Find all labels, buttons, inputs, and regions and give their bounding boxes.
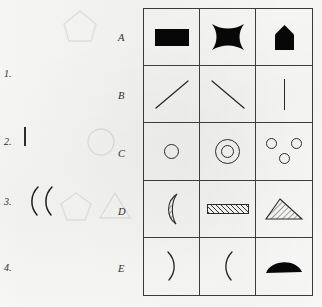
hatched-crescent-icon (162, 192, 182, 226)
cell-d1-hatched-crescent[interactable] (144, 181, 200, 237)
option-figure-hatched-rectangle (24, 128, 26, 146)
hatched-triangle-icon (264, 197, 304, 221)
concentric-circles-icon (215, 139, 240, 164)
cell-c3-three-small-circles[interactable] (256, 123, 312, 179)
cell-d2-hatched-rectangle[interactable] (200, 181, 256, 237)
cell-c2-concentric-circles[interactable] (200, 123, 256, 179)
cell-b1-diagonal-up[interactable] (144, 66, 200, 122)
cell-a1-filled-rectangle[interactable] (144, 9, 200, 65)
diagonal-line-down-icon (210, 79, 246, 110)
option-number-1: 1. (4, 68, 12, 79)
grid-row-e (144, 238, 312, 295)
pentagon-house-icon (274, 24, 295, 51)
cell-e2-arc-left[interactable] (200, 238, 256, 295)
diagonal-line-up-icon (154, 79, 190, 110)
hatched-rectangle-icon (207, 204, 249, 214)
option-number-4: 4. (4, 262, 12, 273)
three-small-circles-icon (264, 137, 304, 165)
cell-b3-vertical-line[interactable] (256, 66, 312, 122)
arc-left-icon (221, 250, 235, 282)
grid-row-c (144, 123, 312, 180)
option-number-2: 2. (4, 136, 12, 147)
option-figure-double-arc (25, 184, 59, 218)
small-circle-icon (164, 144, 179, 159)
cell-c1-small-circle[interactable] (144, 123, 200, 179)
cell-e3-half-dome[interactable] (256, 238, 312, 295)
shape-grid (143, 8, 313, 296)
row-label-e: E (118, 263, 124, 274)
cell-d3-hatched-triangle[interactable] (256, 181, 312, 237)
option-number-3: 3. (4, 196, 12, 207)
arc-right-icon (165, 250, 179, 282)
grid-row-d (144, 181, 312, 238)
row-label-c: C (118, 148, 125, 159)
grid-row-b (144, 66, 312, 123)
cell-e1-arc-right[interactable] (144, 238, 200, 295)
cell-a3-pentagon-house[interactable] (256, 9, 312, 65)
grid-row-a (144, 9, 312, 66)
row-label-d: D (118, 206, 126, 217)
row-label-a: A (118, 32, 124, 43)
cell-b2-diagonal-down[interactable] (200, 66, 256, 122)
row-label-b: B (118, 90, 124, 101)
cell-a2-concave-square[interactable] (200, 9, 256, 65)
half-dome-icon (265, 258, 303, 274)
concave-square-icon (210, 22, 246, 52)
